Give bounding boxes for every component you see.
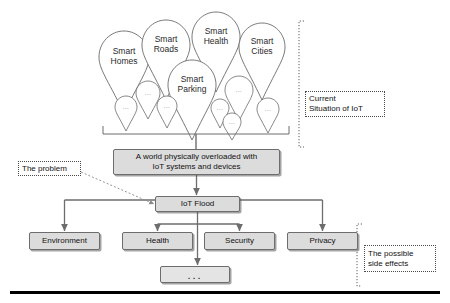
iot-pin-ellipsis-5: ... [217,119,247,125]
box-more-effects[interactable]: ... [160,266,230,283]
box-security-label: Security [225,236,254,246]
box-environment[interactable]: Environment [29,232,100,250]
iot-pin-small-0 [136,81,160,119]
note-the-problem: The problem [18,161,81,176]
note-side-effects: The possible side effects [364,245,436,272]
box-environment-label: Environment [42,236,87,246]
box-health[interactable]: Health [122,232,193,250]
iot-pin-small-5 [223,113,241,140]
iot-pin-small-6 [257,98,279,133]
box-privacy-label: Privacy [309,236,335,246]
iot-pin-small-2 [157,96,177,128]
box-world-overload[interactable]: A world physically overloaded with IoT s… [113,149,280,175]
box-more-effects-label: ... [187,271,202,279]
connectors-group [65,172,323,265]
note-the-problem-label: The problem [22,164,67,174]
iot-pins-group [99,12,285,140]
iot-pin-ellipsis-0: ... [133,90,163,96]
iot-pin-ellipsis-4: ... [205,105,235,111]
baseline-rule [10,291,440,294]
note-current-situation-label: Current Situation of IoT [309,94,363,114]
box-privacy[interactable]: Privacy [287,232,358,250]
box-health-label: Health [146,236,169,246]
iot-pin-ellipsis-2: ... [152,103,182,109]
iot-pin-ellipsis-1: ... [111,104,141,110]
iot-pin-ellipsis-3: ... [224,87,254,93]
iot-pin-ellipsis-6: ... [253,106,283,112]
box-security[interactable]: Security [204,232,275,250]
current-situation-bracket [299,21,304,147]
note-current-situation: Current Situation of IoT [305,91,385,117]
note-side-effects-label: The possible side effects [368,249,413,269]
problem-leader [81,172,154,204]
box-iot-flood-label: IoT Flood [181,199,215,209]
iot-pin-small-1 [115,96,137,131]
box-world-overload-label: A world physically overloaded with IoT s… [136,152,257,172]
box-iot-flood[interactable]: IoT Flood [155,196,240,212]
